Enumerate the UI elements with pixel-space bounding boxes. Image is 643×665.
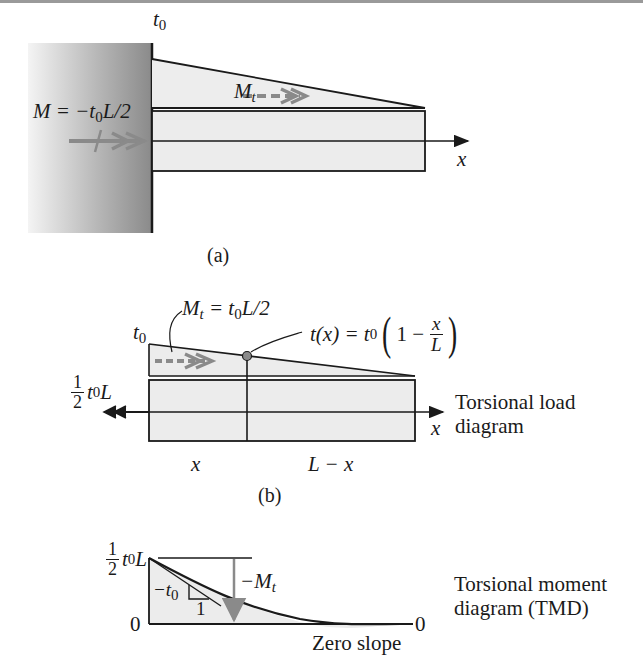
label-minus-mt: −Mt <box>240 571 276 595</box>
label-reaction-moment-a: M = −t0L/2 <box>33 101 131 125</box>
label-reaction-b: 1 2 t0L <box>71 373 112 412</box>
label-segment-L-minus-x: L − x <box>308 454 353 475</box>
shaft-b <box>149 380 415 441</box>
fraction-x-over-L: x L <box>430 314 442 355</box>
label-segment-x: x <box>191 454 200 475</box>
load-point-marker <box>243 352 252 361</box>
panel-c <box>149 558 413 628</box>
caption-a: (a) <box>207 245 229 265</box>
label-mt-equation-b: Mt = t0L/2 <box>182 298 270 322</box>
note-torsional-load-diagram: Torsional load diagram <box>455 390 575 438</box>
label-slope: −t0 <box>153 580 179 603</box>
label-x-axis-b: x <box>431 418 440 439</box>
label-zero-right: 0 <box>415 614 426 635</box>
label-t0-a: t0 <box>153 9 166 33</box>
label-mt-a: Mt <box>234 81 256 105</box>
label-slope-run: 1 <box>196 599 206 618</box>
label-t0-b: t0 <box>133 322 146 346</box>
caption-b: (b) <box>258 485 281 505</box>
panel-a <box>28 43 468 233</box>
label-zero-slope: Zero slope <box>312 633 401 654</box>
note-torsional-moment-diagram: Torsional moment diagram (TMD) <box>454 572 607 620</box>
label-tmd-max: 1 2 t0L <box>106 540 147 579</box>
label-x-axis-a: x <box>457 149 466 170</box>
label-zero-left: 0 <box>130 614 141 635</box>
label-load-function-b: t(x) = t0 ( 1 − x L ) <box>310 311 462 357</box>
